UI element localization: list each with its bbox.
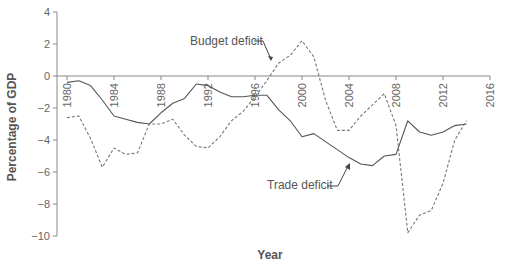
budget-deficit-label: Budget deficit xyxy=(190,34,263,48)
y-tick-label: 0 xyxy=(44,70,50,82)
y-tick-label: −4 xyxy=(37,134,50,146)
x-axis-label: Year xyxy=(257,248,283,262)
x-tick-label: 2000 xyxy=(296,83,308,107)
x-tick-label: 1984 xyxy=(108,83,120,107)
y-tick-label: −8 xyxy=(37,198,50,210)
trade-deficit-line xyxy=(67,81,467,166)
trade-deficit-label: Trade deficit xyxy=(267,178,333,192)
x-tick-label: 2004 xyxy=(343,83,355,107)
x-tick-label: 2008 xyxy=(390,83,402,107)
y-tick-label: −10 xyxy=(31,230,50,242)
y-tick-label: −6 xyxy=(37,166,50,178)
y-tick-label: 4 xyxy=(44,6,50,18)
y-tick-label: −2 xyxy=(37,102,50,114)
data-lines xyxy=(67,41,467,233)
annotations: Budget deficit Trade deficit xyxy=(190,34,350,192)
x-tick-label: 1992 xyxy=(202,83,214,107)
line-chart: 420−2−4−6−8−1019801984198819921996200020… xyxy=(0,0,506,264)
x-tick-label: 2012 xyxy=(437,83,449,107)
budget-arrowhead xyxy=(268,56,273,61)
y-axis-label: Percentage of GDP xyxy=(5,73,19,182)
trade-arrowhead xyxy=(345,163,350,170)
y-tick-label: 2 xyxy=(44,38,50,50)
x-tick-label: 1988 xyxy=(155,83,167,107)
budget-deficit-line xyxy=(67,41,467,233)
x-tick-label: 2016 xyxy=(484,83,496,107)
x-tick-label: 1980 xyxy=(61,83,73,107)
